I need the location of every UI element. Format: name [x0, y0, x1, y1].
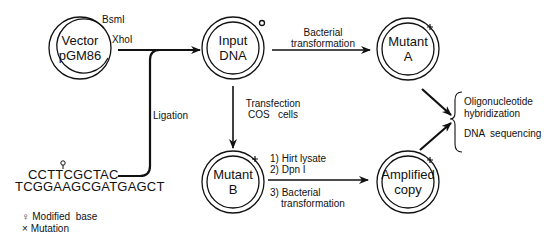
vector-label: Vector pGM86 — [52, 33, 108, 63]
legend-modified-text: Modified base — [32, 211, 97, 222]
input-dna-label: Input DNA — [205, 33, 261, 63]
bacterial-transformation-label: Bacterial transformation — [276, 27, 370, 49]
bt-line1: Bacterial — [276, 27, 370, 38]
steps-label-top: 1) Hirt lysate 2) Dpn I — [270, 153, 326, 175]
modified-base-symbol-icon: ♀ — [22, 211, 30, 222]
xhoi-site-label: XhoI — [112, 34, 133, 45]
mutant-a-line2: A — [380, 49, 436, 64]
amplified-copy-label: Amplified copy — [376, 167, 440, 197]
arrow-amplified-to-analysis — [420, 123, 451, 150]
legend-modified-base: ♀ Modified base — [22, 211, 97, 222]
step-3: 3) Bacterial — [270, 187, 345, 198]
mutant-a-label: Mutant A — [380, 34, 436, 64]
analysis-hybridization: hybridization — [464, 108, 541, 120]
input-dna-line2: DNA — [205, 48, 261, 63]
amplified-line2: copy — [376, 182, 440, 197]
legend-mutation-text: Mutation — [31, 223, 69, 234]
analysis-oligo: Oligonucleotide — [464, 96, 541, 108]
mutant-a-line1: Mutant — [380, 34, 436, 49]
legend-mutation: × Mutation — [22, 223, 69, 234]
arrow-mutant-a-to-analysis — [422, 89, 451, 115]
vector-label-line2: pGM86 — [52, 48, 108, 63]
ligation-label: Ligation — [153, 110, 188, 121]
step-2: 2) Dpn I — [270, 164, 326, 175]
input-dna-line1: Input — [205, 33, 261, 48]
vector-label-line1: Vector — [52, 33, 108, 48]
mutant-b-line1: Mutant — [205, 167, 261, 182]
bt-line2: transformation — [276, 38, 370, 49]
mutant-b-label: Mutant B — [205, 167, 261, 197]
mutation-symbol-icon: × — [22, 223, 28, 234]
analysis-brace — [450, 92, 462, 152]
amplified-line1: Amplified — [376, 167, 440, 182]
transfection-line2: COS cells — [237, 109, 309, 120]
mutant-b-line2: B — [205, 182, 261, 197]
steps-label-bottom: 3) Bacterial transformation — [270, 187, 345, 209]
analysis-sequencing: DNA sequencing — [464, 128, 541, 140]
transfection-line1: Transfection — [237, 98, 309, 109]
step-1: 1) Hirt lysate — [270, 153, 326, 164]
transfection-label: Transfection COS cells — [237, 98, 309, 120]
analysis-label: Oligonucleotide hybridization DNA sequen… — [464, 96, 541, 140]
oligo-bottom-strand: TCGGAAGCGATGAGCT — [15, 180, 165, 193]
bsmi-site-label: BsmI — [102, 14, 125, 25]
step-3b: transformation — [270, 198, 345, 209]
